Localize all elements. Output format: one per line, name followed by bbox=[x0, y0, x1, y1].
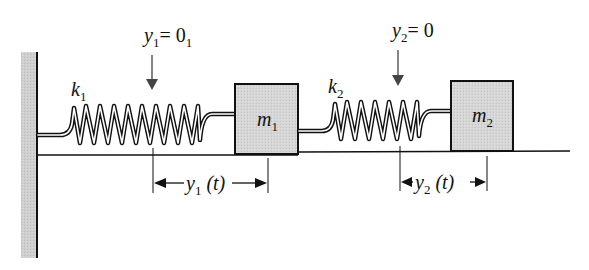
equilibrium-label-y1: y1= 01 bbox=[144, 25, 192, 45]
equilibrium-arrow-1 bbox=[146, 55, 158, 90]
equilibrium-label-y2: y2= 0 bbox=[392, 20, 434, 40]
m1-subscript: 1 bbox=[271, 119, 278, 134]
spring-k1 bbox=[38, 106, 234, 143]
spring-k2 bbox=[299, 102, 450, 139]
k2-symbol: k bbox=[328, 75, 337, 97]
d1-symbol: y bbox=[186, 172, 195, 194]
mass-label-m2: m2 bbox=[472, 105, 493, 125]
mass-label-m1: m1 bbox=[257, 109, 278, 129]
eq1-subscript: 1 bbox=[153, 35, 160, 50]
m2-subscript: 2 bbox=[486, 115, 493, 130]
eq2-symbol: y bbox=[392, 19, 401, 41]
spring-mass-diagram: y1= 01 y2= 0 k1 k2 m1 m2 y1 (t) y2 (t) bbox=[0, 0, 589, 270]
spring-label-k2: k2 bbox=[328, 76, 343, 96]
m1-symbol: m bbox=[257, 108, 271, 130]
m2-symbol: m bbox=[472, 104, 486, 126]
k1-subscript: 1 bbox=[80, 89, 87, 104]
d1-arg: (t) bbox=[206, 172, 225, 194]
eq1-equals: = 0 bbox=[159, 24, 185, 46]
displacement-label-y1: y1 (t) bbox=[186, 173, 225, 193]
fixed-wall bbox=[21, 52, 37, 258]
d2-subscript: 2 bbox=[424, 182, 431, 197]
k1-symbol: k bbox=[71, 78, 80, 100]
eq1-trailing-subscript: 1 bbox=[186, 35, 193, 50]
d2-arg: (t) bbox=[435, 171, 454, 193]
diagram-canvas bbox=[0, 0, 589, 270]
d2-symbol: y bbox=[415, 171, 424, 193]
displacement-label-y2: y2 (t) bbox=[415, 172, 454, 192]
eq2-subscript: 2 bbox=[401, 30, 408, 45]
ground-line-2 bbox=[298, 151, 570, 152]
d1-subscript: 1 bbox=[195, 183, 202, 198]
equilibrium-arrow-2 bbox=[392, 50, 404, 86]
spring-label-k1: k1 bbox=[71, 79, 86, 99]
k2-subscript: 2 bbox=[337, 86, 344, 101]
eq2-equals: = 0 bbox=[407, 19, 433, 41]
eq1-symbol: y bbox=[144, 24, 153, 46]
